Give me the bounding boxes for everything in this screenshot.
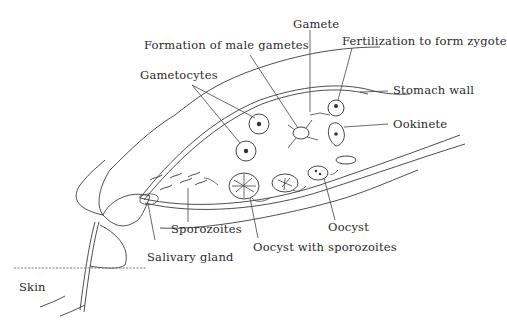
stomach-lower-wall-inner — [145, 144, 465, 209]
label-skin: Skin — [19, 282, 46, 294]
sporozoites-squiggles — [150, 172, 207, 190]
leader-fertilization — [338, 48, 352, 100]
blood-flow-arrow-out — [60, 305, 85, 316]
arrow-oocyst-3 — [330, 170, 338, 175]
label-stomach-wall: Stomach wall — [393, 85, 474, 97]
label-sporozoites: Sporozoites — [171, 224, 242, 236]
gamete — [310, 113, 330, 115]
leader-stomach-wall — [360, 91, 388, 92]
label-ookinete: Ookinete — [393, 119, 447, 131]
leader-oocyst — [324, 178, 335, 220]
leader-oocyst-sporozoites — [250, 198, 258, 238]
nucleus — [334, 132, 338, 136]
nucleus — [334, 104, 338, 108]
label-salivary-gland: Salivary gland — [147, 252, 234, 264]
label-oocyst-with-sporozoites: Oocyst with sporozoites — [253, 242, 397, 254]
label-gametocytes: Gametocytes — [140, 70, 218, 82]
leader-ookinete — [344, 124, 388, 127]
leader-gametocytes-1 — [192, 85, 255, 118]
leader-gametocytes-2 — [192, 85, 240, 143]
male-gamete-formation-cell — [293, 127, 309, 139]
mosquito-head-outline — [76, 160, 105, 215]
proboscis — [80, 222, 95, 310]
label-gamete: Gamete — [293, 19, 339, 31]
label-fertilization: Fertilization to form zygote — [342, 36, 507, 48]
arrow-to-gland — [204, 178, 218, 185]
sporozoite-dot — [319, 173, 321, 175]
oocyst-cell — [308, 166, 328, 180]
blood-flow-arrow-in — [40, 296, 65, 307]
label-formation-male-gametes: Formation of male gametes — [144, 40, 309, 52]
label-oocyst: Oocyst — [328, 222, 369, 234]
proboscis-loop — [90, 225, 126, 268]
sporozoite-dot — [315, 170, 317, 172]
leader-salivary-gland — [148, 204, 155, 240]
nucleus — [244, 149, 248, 153]
nucleus — [257, 122, 261, 126]
ookinete-in-wall — [336, 156, 356, 164]
